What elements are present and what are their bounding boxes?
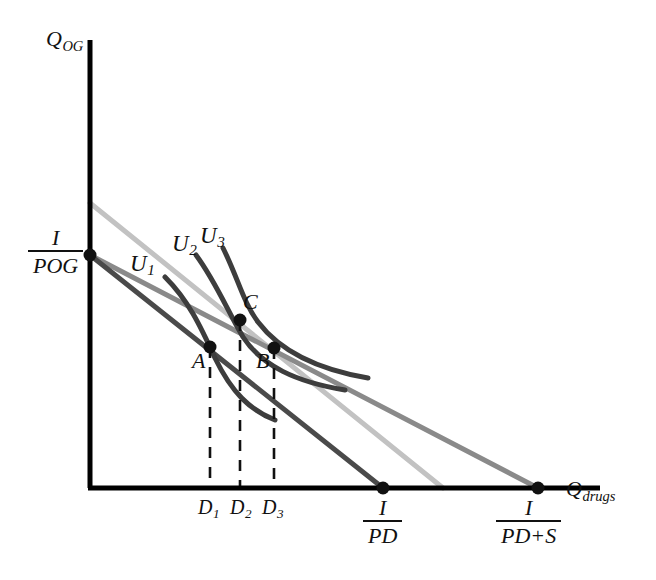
- tangency-point-c-dot: [234, 314, 247, 327]
- y-intercept-label: I POG: [28, 226, 83, 277]
- subsidized-budget-line: [90, 255, 538, 488]
- x-intercept-pds-dot: [532, 482, 545, 495]
- indifference-curve-figure: QOG Qdrugs I POG I PD I PD+S U1 U2 U3 A …: [0, 0, 656, 580]
- indifference-curve-u3-label: U3: [200, 224, 225, 247]
- fraction-bar: [28, 250, 83, 252]
- x-axis-label: Qdrugs: [566, 478, 615, 504]
- indifference-curve-u2-label: U2: [172, 232, 197, 255]
- x-intercept-pd-dot: [377, 482, 390, 495]
- tick-label-d3: D3: [262, 497, 284, 517]
- x-intercept-pds-label: I PD+S: [496, 496, 561, 547]
- x-intercept-pd-label: I PD: [363, 496, 402, 547]
- tangency-point-c-label: C: [243, 291, 258, 313]
- tangency-point-a-label: A: [192, 350, 205, 372]
- tangency-point-b-label: B: [256, 350, 269, 372]
- y-intercept-dot: [84, 249, 97, 262]
- fraction-bar: [496, 520, 561, 522]
- budget-lines-group: [90, 203, 538, 488]
- figure-canvas: [0, 0, 656, 580]
- fraction-bar: [363, 520, 402, 522]
- y-axis-label: QOG: [46, 28, 83, 54]
- indifference-curve-u1-label: U1: [130, 252, 155, 275]
- tick-label-d1: D1: [198, 497, 220, 517]
- tick-label-d2: D2: [230, 497, 252, 517]
